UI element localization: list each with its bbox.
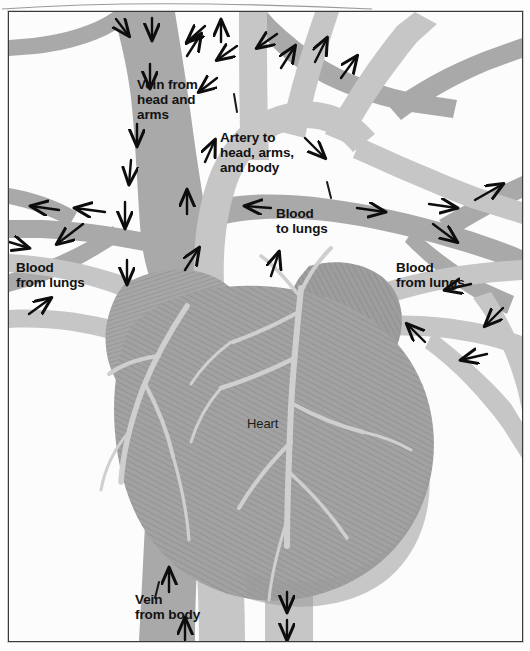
label-blood-from-lungs-left: Blood from lungs [16, 260, 85, 290]
arrow-arch-in-1 [187, 26, 205, 42]
tick-2 [327, 182, 331, 198]
arrow-aorta-up-1 [205, 140, 215, 162]
arrow-desc-aorta-1 [305, 138, 325, 158]
arrow-pv-left-1 [9, 242, 29, 248]
arrow-pv-right-3 [461, 354, 487, 360]
label-heart: Heart [247, 416, 278, 431]
figure-page: Vein from head and arms Artery to head, … [0, 0, 530, 651]
label-vein-from-head-and-arms: Vein from head and arms [137, 77, 198, 122]
arrow-svc-5 [129, 160, 131, 184]
label-artery-to-head-arms-and-body: Artery to head, arms, and body [220, 130, 294, 175]
figure-frame: Vein from head and arms Artery to head, … [8, 11, 523, 642]
label-vein-from-body: Vein from body [135, 592, 200, 622]
arrow-arch-in-2 [217, 46, 237, 60]
label-blood-to-lungs: Blood to lungs [276, 206, 328, 236]
arrow-pa-left-2 [75, 208, 105, 212]
arrow-arch-in-4 [199, 78, 217, 92]
arrow-pa-right-2 [429, 204, 457, 208]
heart-diagram-artwork [9, 12, 522, 641]
label-blood-from-lungs-right: Blood from lungs [396, 260, 465, 290]
tick-1 [234, 94, 237, 112]
